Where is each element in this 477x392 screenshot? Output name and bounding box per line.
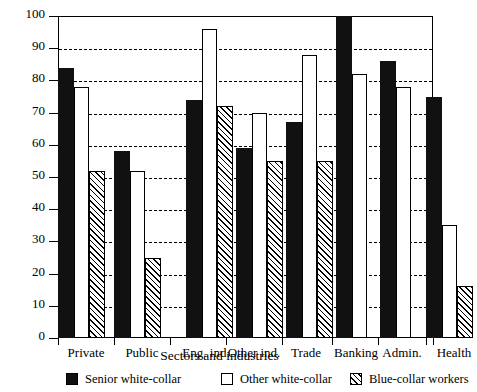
x-tick-2 <box>170 338 171 345</box>
bar <box>380 61 396 338</box>
legend-item: Senior white-collar <box>66 369 181 389</box>
y-tick-mark <box>49 145 58 146</box>
y-tick-label: 60 <box>32 136 45 149</box>
legend-item: Other white-collar <box>221 369 332 389</box>
bar <box>217 106 233 338</box>
y-tick-label: 90 <box>32 39 45 52</box>
y-tick-label: 30 <box>32 232 45 245</box>
bar <box>317 161 333 338</box>
bar <box>58 68 74 338</box>
y-tick-mark <box>49 48 58 49</box>
bar-group <box>186 16 234 338</box>
bar <box>89 171 105 338</box>
bar <box>286 122 302 338</box>
bar <box>186 100 202 338</box>
bar <box>352 74 368 338</box>
y-tick-label: 70 <box>32 104 45 117</box>
bar <box>457 286 473 338</box>
x-tick-5 <box>332 338 333 345</box>
x-tick-4 <box>282 338 283 345</box>
bar <box>130 171 146 338</box>
x-axis-title: Sectors and industries <box>0 348 439 363</box>
bar <box>267 161 283 338</box>
y-tick-label: 0 <box>39 329 46 342</box>
legend-item: Blue-collar workers <box>350 369 469 389</box>
chart-legend: Senior white-collarOther white-collarBlu… <box>0 369 439 392</box>
y-tick-mark <box>49 274 58 275</box>
bar <box>442 225 458 338</box>
bar <box>74 87 90 338</box>
y-tick-label: 40 <box>32 200 45 213</box>
bar-group <box>336 16 380 338</box>
solid-black-square-icon <box>66 373 78 385</box>
bar <box>202 29 218 338</box>
y-tick-mark <box>49 16 58 17</box>
y-tick-label: 10 <box>32 297 45 310</box>
bar <box>236 148 252 338</box>
x-tick-1 <box>114 338 115 345</box>
bar <box>252 113 268 338</box>
y-tick-label: 80 <box>32 71 45 84</box>
legend-label: Other white-collar <box>240 373 332 386</box>
legend-label: Senior white-collar <box>85 373 181 386</box>
hatched-square-icon <box>350 373 362 385</box>
bar-group <box>426 16 474 338</box>
y-axis: 0102030405060708090100 <box>0 0 58 392</box>
y-tick-mark <box>49 177 58 178</box>
bar-group <box>380 16 424 338</box>
bar-series-container <box>58 16 433 338</box>
open-white-square-icon <box>221 373 233 385</box>
bar-group <box>58 16 106 338</box>
bar <box>396 87 412 338</box>
x-tick-8 <box>433 338 434 345</box>
bar <box>336 16 352 338</box>
y-tick-label: 100 <box>26 7 46 20</box>
legend-label: Blue-collar workers <box>369 373 469 386</box>
bar-group <box>286 16 334 338</box>
bar <box>114 151 130 338</box>
x-tick-3 <box>226 338 227 345</box>
y-tick-mark <box>49 306 58 307</box>
bar <box>426 97 442 339</box>
y-tick-mark <box>49 80 58 81</box>
y-tick-mark <box>49 338 58 339</box>
x-tick-0 <box>58 338 59 345</box>
bar-group <box>114 16 162 338</box>
x-tick-7 <box>426 338 427 345</box>
y-tick-mark <box>49 113 58 114</box>
y-tick-label: 20 <box>32 265 45 278</box>
bar <box>302 55 318 338</box>
y-tick-mark <box>49 241 58 242</box>
y-tick-mark <box>49 209 58 210</box>
x-tick-6 <box>378 338 379 345</box>
bar <box>145 258 161 339</box>
bar-group <box>236 16 284 338</box>
y-tick-label: 50 <box>32 168 45 181</box>
